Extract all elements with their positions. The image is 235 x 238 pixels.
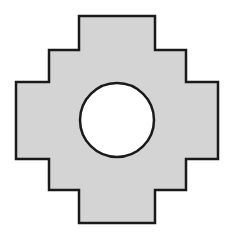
stepped-cross-diagram (0, 0, 235, 238)
diagram-canvas (0, 0, 235, 238)
center-circle-hole (80, 83, 154, 157)
